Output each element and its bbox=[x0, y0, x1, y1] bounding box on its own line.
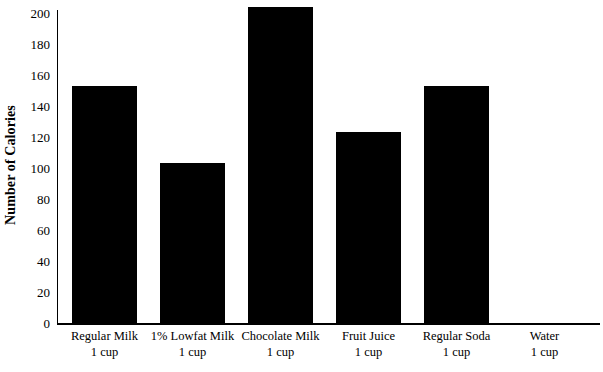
y-tick-label: 40 bbox=[10, 255, 50, 268]
y-tick-label: 160 bbox=[10, 69, 50, 82]
y-tick-label: 0 bbox=[10, 317, 50, 330]
y-tick-label: 100 bbox=[10, 162, 50, 175]
y-tick-label: 140 bbox=[10, 100, 50, 113]
y-axis-tick-labels: 200180160140120100806040200 bbox=[8, 10, 50, 323]
bar bbox=[336, 132, 401, 323]
x-category-name: Water bbox=[490, 328, 600, 344]
bar bbox=[72, 86, 137, 323]
bar-chart: Number of Calories 200180160140120100806… bbox=[0, 0, 603, 372]
y-tick-label: 80 bbox=[10, 193, 50, 206]
x-category-label: Water1 cup bbox=[490, 328, 600, 361]
y-axis-line bbox=[57, 10, 58, 323]
bar bbox=[248, 7, 313, 323]
y-tick-label: 60 bbox=[10, 224, 50, 237]
y-tick-label: 200 bbox=[10, 7, 50, 20]
bar bbox=[424, 86, 489, 323]
bar bbox=[160, 163, 225, 323]
x-axis-category-labels: Regular Milk1 cup1% Lowfat Milk1 cupChoc… bbox=[57, 328, 600, 372]
plot-area bbox=[57, 10, 600, 323]
y-tick-label: 120 bbox=[10, 131, 50, 144]
y-tick-label: 180 bbox=[10, 38, 50, 51]
y-tick-label: 20 bbox=[10, 286, 50, 299]
x-category-unit: 1 cup bbox=[490, 344, 600, 361]
x-axis-line bbox=[57, 323, 600, 325]
